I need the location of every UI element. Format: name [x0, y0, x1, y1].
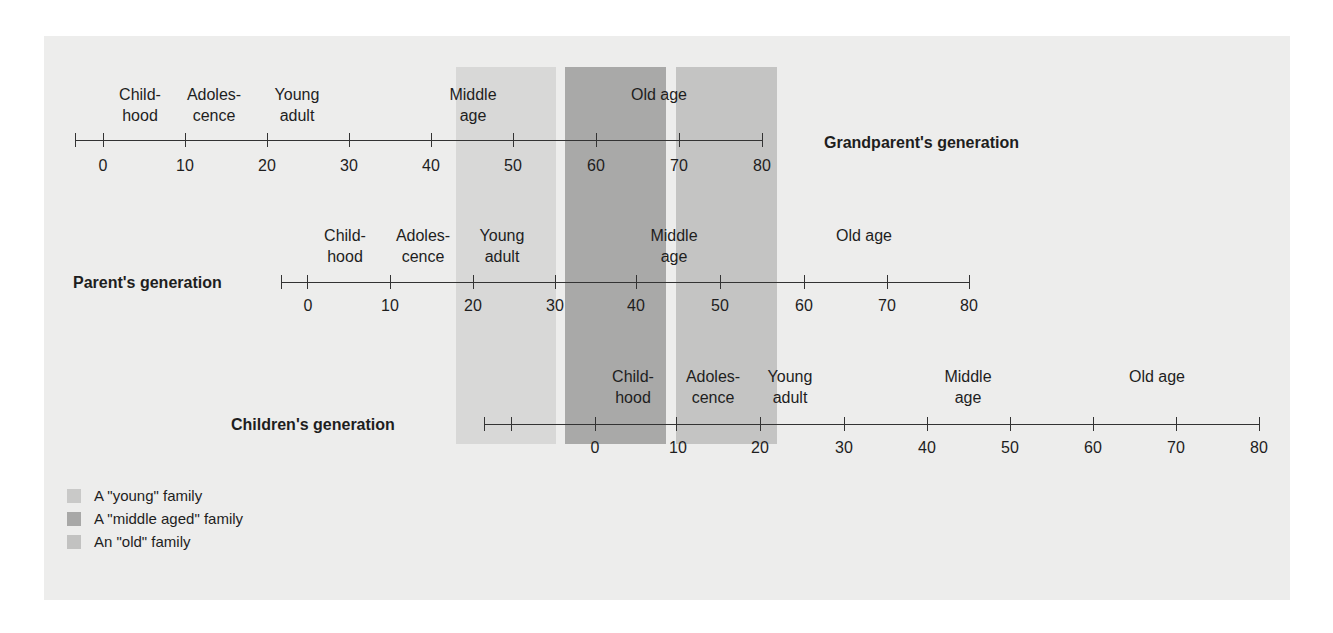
tick-label: 0 — [591, 439, 600, 457]
tick — [75, 133, 76, 147]
tick-label: 40 — [627, 297, 645, 315]
tick-label: 30 — [340, 157, 358, 175]
tick-label: 70 — [878, 297, 896, 315]
tick — [513, 133, 514, 147]
tick-label: 70 — [1167, 439, 1185, 457]
stage-childhood: Child- hood — [612, 366, 654, 408]
axis-line — [484, 424, 1260, 425]
legend: A "young" family A "middle aged" family … — [67, 484, 243, 553]
stage-childhood: Child- hood — [324, 225, 366, 267]
legend-item-young-family: A "young" family — [67, 484, 243, 507]
legend-item-old-family: An "old" family — [67, 530, 243, 553]
tick — [676, 417, 677, 431]
tick-label: 30 — [835, 439, 853, 457]
tick-label: 10 — [381, 297, 399, 315]
stage-adolescence: Adoles- cence — [187, 84, 241, 126]
tick-label: 40 — [918, 439, 936, 457]
legend-swatch-icon — [67, 489, 81, 503]
tick — [473, 275, 474, 289]
legend-label: A "young" family — [94, 487, 202, 504]
tick-label: 80 — [1250, 439, 1268, 457]
stage-young-adult: Young adult — [275, 84, 320, 126]
tick — [595, 417, 596, 431]
stage-middle-age: Middle age — [449, 84, 496, 126]
stage-young-adult: Young adult — [480, 225, 525, 267]
tick — [1093, 417, 1094, 431]
tick — [431, 133, 432, 147]
tick-label: 80 — [753, 157, 771, 175]
stage-adolescence: Adoles- cence — [396, 225, 450, 267]
tick-label: 70 — [670, 157, 688, 175]
tick — [1176, 417, 1177, 431]
stage-adolescence: Adoles- cence — [686, 366, 740, 408]
tick-label: 0 — [304, 297, 313, 315]
tick-label: 10 — [176, 157, 194, 175]
tick — [1259, 417, 1260, 431]
tick-label: 60 — [795, 297, 813, 315]
stage-middle-age: Middle age — [944, 366, 991, 408]
tick-label: 20 — [258, 157, 276, 175]
generation-label-children: Children's generation — [231, 416, 395, 434]
tick — [349, 133, 350, 147]
stage-young-adult: Young adult — [768, 366, 813, 408]
tick — [281, 275, 282, 289]
tick-label: 60 — [587, 157, 605, 175]
tick — [636, 275, 637, 289]
tick-label: 50 — [711, 297, 729, 315]
tick-label: 40 — [422, 157, 440, 175]
axis-line — [281, 282, 970, 283]
stage-childhood: Child- hood — [119, 84, 161, 126]
tick-label: 30 — [546, 297, 564, 315]
tick — [555, 275, 556, 289]
legend-swatch-icon — [67, 512, 81, 526]
generation-label-parent: Parent's generation — [73, 274, 222, 292]
tick — [390, 275, 391, 289]
tick-label: 80 — [960, 297, 978, 315]
tick-label: 50 — [1001, 439, 1019, 457]
tick — [484, 417, 485, 431]
tick — [267, 133, 268, 147]
stage-middle-age: Middle age — [650, 225, 697, 267]
legend-label: An "old" family — [94, 533, 191, 550]
tick — [1010, 417, 1011, 431]
tick — [927, 417, 928, 431]
tick-label: 50 — [504, 157, 522, 175]
tick — [760, 417, 761, 431]
legend-swatch-icon — [67, 535, 81, 549]
tick-label: 60 — [1084, 439, 1102, 457]
stage-old-age: Old age — [631, 84, 687, 105]
tick-label: 20 — [751, 439, 769, 457]
tick — [720, 275, 721, 289]
tick — [596, 133, 597, 147]
legend-item-middle-aged-family: A "middle aged" family — [67, 507, 243, 530]
tick — [969, 275, 970, 289]
axis-line — [75, 140, 763, 141]
tick — [185, 133, 186, 147]
tick — [679, 133, 680, 147]
tick — [103, 133, 104, 147]
tick-label: 20 — [464, 297, 482, 315]
tick — [844, 417, 845, 431]
tick — [804, 275, 805, 289]
tick — [511, 417, 512, 431]
generation-label-grandparent: Grandparent's generation — [824, 134, 1019, 152]
stage-old-age: Old age — [836, 225, 892, 246]
tick-label: 0 — [99, 157, 108, 175]
stage-old-age: Old age — [1129, 366, 1185, 387]
tick-label: 10 — [669, 439, 687, 457]
tick — [887, 275, 888, 289]
tick — [307, 275, 308, 289]
legend-label: A "middle aged" family — [94, 510, 243, 527]
tick — [762, 133, 763, 147]
